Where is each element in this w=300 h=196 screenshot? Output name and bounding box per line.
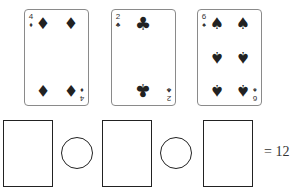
spade-icon: ♠	[235, 49, 251, 65]
operator-slot-2[interactable]	[160, 137, 192, 169]
card-four-of-diamonds[interactable]: 4 ♦ ♦ ♦ ♦ ♦ 4 ♦	[24, 9, 89, 106]
number-slot-3[interactable]	[203, 120, 253, 187]
club-icon: ♣	[135, 16, 151, 32]
number-slot-1[interactable]	[3, 120, 53, 187]
card-index-bottom: 6 ♠	[251, 86, 259, 102]
card-index-bottom: 4 ♦	[78, 86, 86, 102]
club-icon: ♣	[114, 21, 122, 29]
spade-icon: ♠	[251, 86, 259, 94]
spade-icon: ♠	[209, 49, 225, 65]
spade-icon: ♠	[235, 82, 251, 98]
spade-icon: ♠	[235, 16, 251, 32]
diamond-icon: ♦	[63, 82, 79, 98]
club-icon: ♣	[165, 86, 173, 94]
card-index-top: 2 ♣	[114, 13, 122, 29]
diamond-icon: ♦	[78, 86, 86, 94]
number-slot-2[interactable]	[102, 120, 152, 187]
spade-icon: ♠	[209, 82, 225, 98]
spade-icon: ♠	[200, 21, 208, 29]
equation-result: = 12	[264, 144, 289, 160]
card-two-of-clubs[interactable]: 2 ♣ ♣ ♣ 2 ♣	[111, 9, 176, 106]
club-icon: ♣	[135, 82, 151, 98]
diamond-icon: ♦	[35, 16, 51, 32]
spade-icon: ♠	[209, 16, 225, 32]
card-index-top: 6 ♠	[200, 13, 208, 29]
operator-slot-1[interactable]	[61, 137, 93, 169]
card-index-bottom: 2 ♣	[165, 86, 173, 102]
diamond-icon: ♦	[63, 16, 79, 32]
card-index-top: 4 ♦	[27, 13, 35, 29]
diamond-icon: ♦	[35, 82, 51, 98]
card-six-of-spades[interactable]: 6 ♠ ♠ ♠ ♠ ♠ ♠ ♠ 6 ♠	[197, 9, 262, 106]
diamond-icon: ♦	[27, 21, 35, 29]
